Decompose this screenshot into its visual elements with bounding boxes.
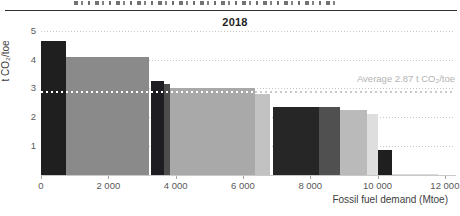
x-tick-12000	[445, 176, 446, 179]
x-tick-4000	[176, 176, 177, 179]
bar-segment-10	[367, 114, 378, 175]
average-line-label: Average 2.87 t CO₂/toe	[357, 73, 455, 84]
x-tick-2000	[108, 176, 109, 179]
x-axis-line	[41, 175, 456, 176]
bar-segment-3	[151, 81, 164, 175]
x-tick-label-12000: 12 000	[423, 180, 460, 191]
x-tick-6000	[243, 176, 244, 179]
bar-segment-6	[255, 94, 270, 175]
y-tick-label-3: 3	[8, 82, 36, 93]
bar-segment-8	[319, 107, 340, 175]
x-tick-label-2000: 2 000	[86, 180, 130, 191]
x-tick-label-8000: 8 000	[288, 180, 332, 191]
x-tick-0	[41, 176, 42, 179]
y-tick-label-4: 4	[8, 54, 36, 65]
gridline-y-5	[41, 31, 455, 32]
x-tick-label-10000: 10 000	[356, 180, 400, 191]
bar-segment-2	[66, 57, 149, 175]
clipped-title-text	[74, 1, 336, 5]
x-tick-label-0: 0	[19, 180, 63, 191]
x-tick-label-6000: 6 000	[221, 180, 265, 191]
average-line-over-bars	[41, 91, 255, 93]
y-tick-label-2: 2	[8, 111, 36, 122]
chart-canvas: 2018 t CO₂/toe 12345 Average 2.87 t CO₂/…	[0, 0, 460, 216]
bar-segment-11	[378, 150, 391, 175]
bar-segment-9	[340, 110, 367, 175]
y-tick-label-5: 5	[8, 25, 36, 36]
x-tick-8000	[310, 176, 311, 179]
x-tick-10000	[378, 176, 379, 179]
chart-subtitle-year: 2018	[28, 16, 442, 28]
average-line-over-background	[255, 91, 455, 93]
bar-segment-1	[41, 41, 66, 175]
title-divider-line	[5, 10, 457, 11]
x-tick-label-4000: 4 000	[154, 180, 198, 191]
y-tick-label-1: 1	[8, 140, 36, 151]
x-axis-label: Fossil fuel demand (Mtoe)	[332, 194, 448, 205]
bar-segment-7	[273, 107, 319, 175]
bar-segment-5	[170, 88, 255, 175]
